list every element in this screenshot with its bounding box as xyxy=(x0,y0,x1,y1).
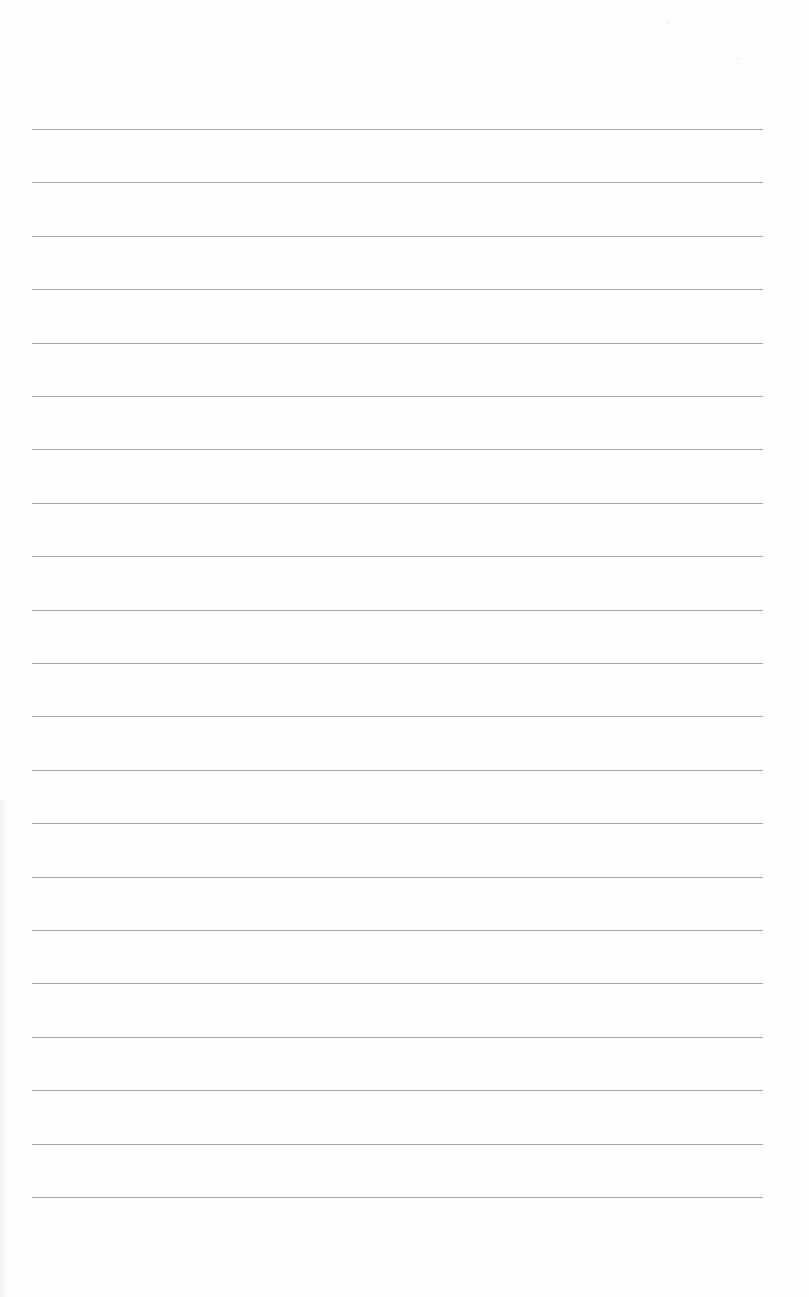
lined-paper-sheet xyxy=(0,0,809,1297)
ruled-line xyxy=(32,503,763,504)
ruled-line xyxy=(32,610,763,611)
ruled-line xyxy=(32,877,763,878)
ruled-line xyxy=(32,236,763,237)
ruled-line xyxy=(32,716,763,717)
ruled-line xyxy=(32,343,763,344)
ruled-line xyxy=(32,1144,763,1145)
ruled-line xyxy=(32,823,763,824)
paper-speck xyxy=(738,58,739,59)
ruled-line xyxy=(32,930,763,931)
ruled-line xyxy=(32,289,763,290)
ruled-line xyxy=(32,1197,763,1198)
ruled-line xyxy=(32,1037,763,1038)
page-edge-shadow xyxy=(0,800,8,1297)
ruled-line xyxy=(32,770,763,771)
ruled-line xyxy=(32,129,763,130)
ruled-line xyxy=(32,983,763,984)
ruled-line xyxy=(32,663,763,664)
ruled-line xyxy=(32,396,763,397)
paper-speck xyxy=(668,22,669,23)
ruled-line xyxy=(32,1090,763,1091)
ruled-line xyxy=(32,556,763,557)
ruled-line xyxy=(32,182,763,183)
ruled-line xyxy=(32,449,763,450)
